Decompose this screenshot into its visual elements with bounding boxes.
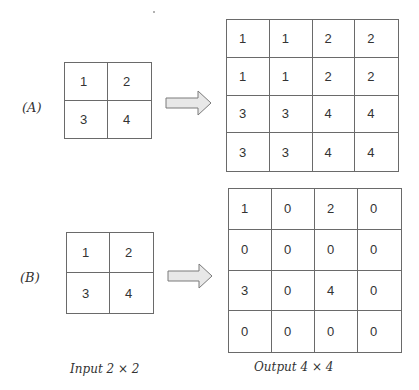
grid-cell: 1	[67, 233, 110, 273]
grid-cell: 0	[272, 311, 315, 352]
grid-cell: 0	[358, 230, 401, 271]
grid-cell: 0	[358, 311, 401, 352]
grid-cell: 1	[270, 58, 313, 96]
grid-cell: 1	[65, 63, 108, 101]
grid-cell: 4	[110, 273, 153, 313]
grid-cell: 4	[108, 101, 151, 139]
input-caption: Input 2 × 2	[70, 362, 139, 376]
panel-b-label: (B)	[20, 270, 40, 285]
grid-cell: 3	[229, 271, 272, 312]
grid-cell: 0	[272, 230, 315, 271]
input-caption-text: Input 2 × 2	[70, 362, 139, 376]
panel-b-input-grid: 1 2 3 4	[66, 232, 154, 314]
grid-cell: 0	[272, 189, 315, 230]
grid-cell: 2	[355, 20, 398, 58]
grid-cell: 3	[65, 101, 108, 139]
grid-cell: 4	[355, 133, 398, 171]
right-arrow-icon	[165, 90, 213, 116]
grid-cell: 1	[227, 20, 270, 58]
grid-cell: 0	[315, 311, 358, 352]
right-arrow-icon	[167, 263, 213, 289]
grid-cell: 0	[315, 230, 358, 271]
grid-cell: 4	[355, 96, 398, 134]
panel-a-output-grid: 1 1 2 2 1 1 2 2 3 3 4 4 3 3 4 4	[226, 19, 399, 172]
panel-a-input-grid: 1 2 3 4	[64, 62, 152, 139]
grid-cell: 3	[270, 96, 313, 134]
grid-cell: 3	[67, 273, 110, 313]
panel-a-label: (A)	[22, 100, 42, 115]
grid-cell: 2	[108, 63, 151, 101]
panel-b-output-grid: 1 0 2 0 0 0 0 0 3 0 4 0 0 0 0 0	[228, 188, 402, 353]
grid-cell: 0	[229, 311, 272, 352]
grid-cell: 4	[315, 271, 358, 312]
grid-cell: 3	[227, 133, 270, 171]
grid-cell: 0	[358, 189, 401, 230]
grid-cell: 2	[313, 20, 356, 58]
grid-cell: 2	[110, 233, 153, 273]
grid-cell: 1	[227, 58, 270, 96]
grid-cell: 4	[313, 133, 356, 171]
grid-cell: 2	[313, 58, 356, 96]
grid-cell: 3	[270, 133, 313, 171]
grid-cell: 3	[227, 96, 270, 134]
output-caption-text: Output 4 × 4	[254, 360, 333, 374]
grid-cell: 1	[229, 189, 272, 230]
grid-cell: 0	[229, 230, 272, 271]
output-caption: Output 4 × 4	[254, 360, 333, 374]
grid-cell: 4	[313, 96, 356, 134]
grid-cell: 2	[315, 189, 358, 230]
grid-cell: 1	[270, 20, 313, 58]
stray-dot	[153, 11, 155, 13]
grid-cell: 0	[358, 271, 401, 312]
grid-cell: 0	[272, 271, 315, 312]
grid-cell: 2	[355, 58, 398, 96]
